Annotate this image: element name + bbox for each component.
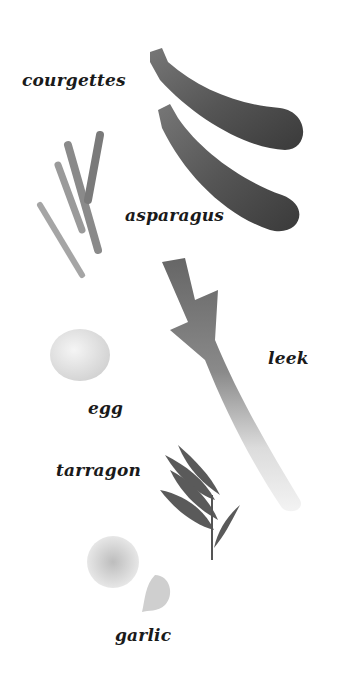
asparagus-image bbox=[40, 135, 100, 275]
vegetable-illustrations bbox=[0, 0, 346, 680]
tarragon-image bbox=[160, 445, 240, 560]
label-leek: leek bbox=[268, 348, 309, 368]
label-asparagus: asparagus bbox=[125, 205, 224, 225]
egg-image bbox=[50, 329, 110, 381]
label-egg: egg bbox=[88, 398, 123, 418]
garlic-image bbox=[87, 536, 170, 612]
courgettes-image bbox=[150, 48, 303, 231]
label-tarragon: tarragon bbox=[56, 460, 141, 480]
label-garlic: garlic bbox=[115, 625, 171, 645]
label-courgettes: courgettes bbox=[22, 70, 126, 90]
